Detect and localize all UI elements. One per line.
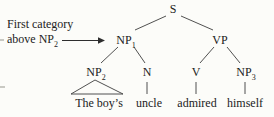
np2-triangle (71, 80, 123, 94)
scan-artifact (0, 86, 5, 88)
edge-vp-v (200, 47, 214, 63)
node-np2: NP2 (86, 65, 105, 81)
leaf-uncle: uncle (136, 96, 162, 110)
edge-s-vp (181, 16, 213, 30)
node-s: S (170, 2, 177, 16)
annotation-line2: above NP2 (7, 32, 73, 48)
node-vp: VP (212, 33, 227, 47)
leaf-the-boys: The boy’s (75, 96, 123, 110)
leaf-himself: himself (227, 96, 263, 110)
node-np3: NP3 (236, 65, 255, 81)
node-n: N (143, 65, 152, 79)
scan-artifact (0, 39, 4, 41)
annotation-subscript: 2 (54, 40, 58, 49)
node-v: V (192, 65, 201, 79)
edge-vp-np3 (227, 47, 240, 63)
node-np1: NP1 (116, 33, 135, 49)
leaf-admired: admired (177, 96, 216, 110)
annotation-line1: First category (7, 17, 73, 32)
edge-np1-np2 (101, 47, 118, 63)
syntax-tree-figure: First category above NP2 S NP1 VP NP2 N … (0, 0, 274, 117)
annotation: First category above NP2 (7, 17, 73, 48)
edge-s-np1 (135, 16, 166, 30)
edge-np1-n (134, 47, 145, 63)
